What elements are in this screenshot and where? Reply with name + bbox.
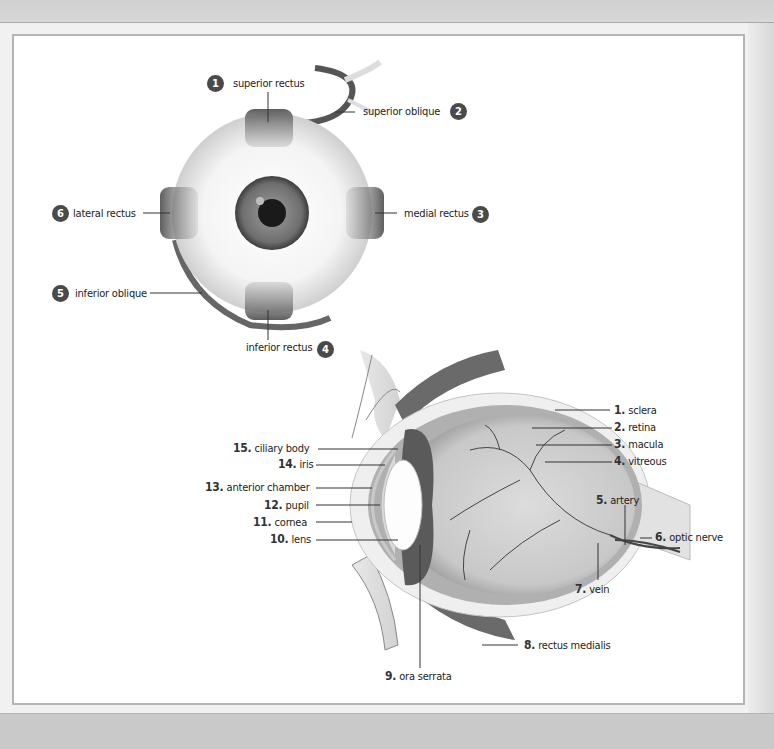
label-inferior-rectus: inferior rectus [246, 341, 312, 354]
inferior-rectus-muscle [245, 282, 293, 320]
front-view-eyeball [160, 62, 384, 327]
label-rectus-medialis: 8.rectus medialis [524, 639, 611, 652]
label-superior-oblique: superior oblique [363, 105, 440, 118]
label-vein: 7.vein [575, 583, 609, 596]
label-lens: 10.lens [270, 533, 311, 546]
label-cornea: 11.cornea [253, 516, 307, 529]
badge-2: 2 [450, 103, 467, 120]
label-inferior-oblique: inferior oblique [75, 287, 147, 300]
label-ciliary-body: 15.ciliary body [233, 442, 309, 455]
label-lateral-rectus: lateral rectus [73, 207, 136, 220]
badge-4: 4 [317, 341, 334, 358]
badge-1: 1 [207, 75, 224, 92]
badge-3: 3 [472, 206, 489, 223]
badge-6: 6 [52, 205, 69, 222]
badge-5: 5 [52, 285, 69, 302]
label-optic-nerve: 6.optic nerve [655, 531, 723, 544]
label-ora-serrata: 9.ora serrata [385, 670, 452, 683]
label-superior-rectus: superior rectus [233, 77, 305, 90]
label-retina: 2.retina [614, 421, 656, 434]
label-artery: 5.artery [596, 494, 639, 507]
label-anterior-chamber: 13.anterior chamber [205, 481, 310, 494]
label-vitreous: 4.vitreous [614, 455, 667, 468]
label-medial-rectus: medial rectus [404, 207, 469, 220]
superior-rectus-muscle [245, 109, 293, 147]
label-macula: 3.macula [614, 438, 663, 451]
label-iris: 14.iris [278, 458, 313, 471]
label-pupil: 12.pupil [264, 499, 309, 512]
label-sclera: 1.sclera [614, 404, 657, 417]
